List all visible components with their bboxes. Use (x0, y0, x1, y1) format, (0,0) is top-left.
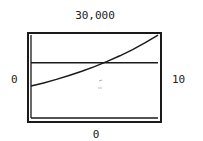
exponential-curve-series (31, 35, 158, 86)
artifact-mark (99, 80, 102, 81)
window-frame (28, 33, 161, 122)
graph-window (0, 0, 203, 141)
